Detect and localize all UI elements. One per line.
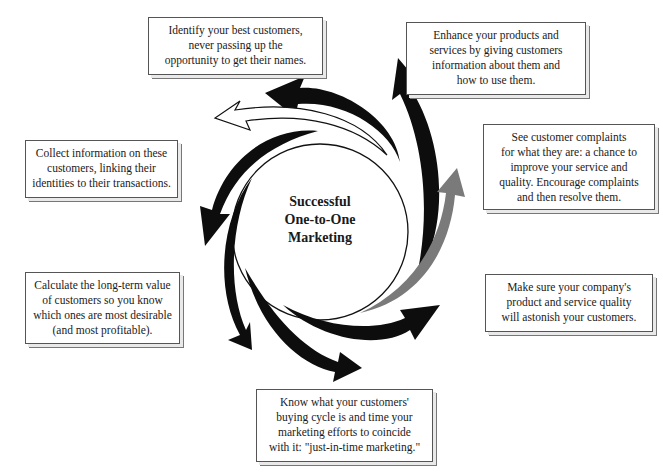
box-line: for what they are: a chance to <box>490 145 648 160</box>
box-line: quality. Encourage complaints <box>490 175 648 190</box>
box-line: Make sure your company's <box>492 280 646 295</box>
center-title: Successful One-to-One Marketing <box>250 193 390 247</box>
center-title-line: Successful <box>250 193 390 211</box>
box-line: and then resolve them. <box>490 190 648 205</box>
box-line: services by giving customers <box>413 43 579 58</box>
box-line: Know what your customers' <box>263 395 426 410</box>
box-identify-customers: Identify your best customers, never pass… <box>148 17 323 75</box>
box-line: product and service quality <box>492 295 646 310</box>
box-line: Collect information on these <box>32 146 171 161</box>
box-line: (and most profitable). <box>32 323 173 338</box>
box-product-quality: Make sure your company's product and ser… <box>485 274 653 332</box>
box-lifetime-value: Calculate the long-term value of custome… <box>25 272 180 344</box>
box-line: Identify your best customers, <box>155 23 316 38</box>
box-line: improve your service and <box>490 160 648 175</box>
box-line: never passing up the <box>155 38 316 53</box>
box-line: with it: "just-in-time marketing." <box>263 440 426 455</box>
box-line: information about them and <box>413 58 579 73</box>
box-line: opportunity to get their names. <box>155 53 316 68</box>
box-line: which ones are most desirable <box>32 308 173 323</box>
box-customer-complaints: See customer complaints for what they ar… <box>483 124 655 210</box>
box-line: Calculate the long-term value <box>32 278 173 293</box>
box-line: will astonish your customers. <box>492 310 646 325</box>
box-line: marketing efforts to coincide <box>263 425 426 440</box>
box-line: customers, linking their <box>32 161 171 176</box>
box-line: Enhance your products and <box>413 28 579 43</box>
box-enhance-products: Enhance your products and services by gi… <box>406 22 586 95</box>
center-title-line: Marketing <box>250 229 390 247</box>
box-buying-cycle: Know what your customers' buying cycle i… <box>256 389 433 462</box>
box-line: buying cycle is and time your <box>263 410 426 425</box>
box-line: of customers so you know <box>32 293 173 308</box>
center-title-line: One-to-One <box>250 211 390 229</box>
box-line: how to use them. <box>413 73 579 88</box>
box-collect-information: Collect information on these customers, … <box>25 140 178 198</box>
box-line: identities to their transactions. <box>32 176 171 191</box>
box-line: See customer complaints <box>490 130 648 145</box>
truncated-figure-caption <box>18 468 318 473</box>
